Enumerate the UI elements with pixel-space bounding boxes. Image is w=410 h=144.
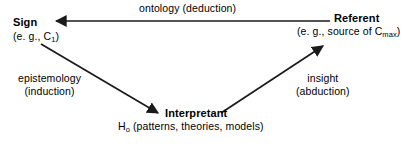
node-sign-subtitle: (e. g., C1)	[13, 30, 59, 43]
edge-label-insight-line1: insight	[296, 72, 350, 85]
edge-label-insight: insight (abduction)	[296, 72, 350, 98]
node-sign-title: Sign	[13, 16, 37, 28]
node-interpretant-title: Interpretant	[165, 107, 264, 120]
node-interpretant-subtitle-suffix: (patterns, theories, models)	[130, 120, 264, 132]
edge-label-ontology: ontology (deduction)	[139, 2, 236, 15]
node-referent: Referent (e. g., source of Cmax)	[334, 12, 400, 37]
edge-label-epistemology: epistemology (induction)	[18, 72, 81, 98]
node-sign: Sign (e. g., C1)	[13, 12, 59, 43]
node-sign-subtitle-prefix: (e. g., C	[13, 30, 51, 42]
node-interpretant: Interpretant Ho (patterns, theories, mod…	[165, 107, 264, 132]
edge-label-ontology-line1: ontology (deduction)	[139, 2, 236, 15]
edge-label-insight-line2: (abduction)	[296, 85, 350, 98]
edge-label-epistemology-line2: (induction)	[18, 85, 81, 98]
node-referent-subtitle-prefix: (e. g., source of C	[297, 25, 382, 37]
node-sign-subscript: 1	[51, 35, 55, 44]
node-referent-title: Referent	[334, 12, 400, 25]
node-interpretant-subtitle-prefix: H	[118, 120, 126, 132]
node-referent-subscript: max	[382, 30, 396, 39]
diagram-canvas: Sign (e. g., C1) Referent (e. g., source…	[0, 0, 410, 144]
node-interpretant-subscript: o	[126, 125, 130, 134]
node-interpretant-subtitle: Ho (patterns, theories, models)	[118, 120, 264, 133]
node-referent-subtitle-suffix: )	[397, 25, 401, 37]
node-sign-subtitle-suffix: )	[56, 30, 60, 42]
node-referent-subtitle: (e. g., source of Cmax)	[297, 25, 400, 38]
edge-label-epistemology-line1: epistemology	[18, 72, 81, 85]
